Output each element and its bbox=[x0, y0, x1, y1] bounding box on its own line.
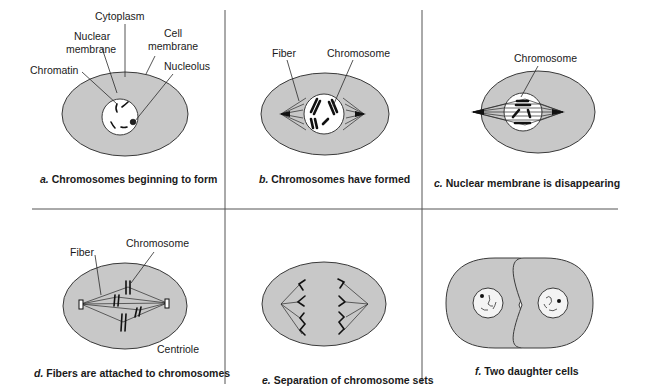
centriole-right bbox=[165, 299, 169, 308]
panel-e: e. Separation of chromosome sets bbox=[262, 262, 434, 386]
caption-c: c. Nuclear membrane is disappearing bbox=[434, 177, 620, 189]
caption-e: e. Separation of chromosome sets bbox=[262, 374, 434, 386]
nucleus-f-left bbox=[473, 288, 503, 318]
label-fiber-b: Fiber bbox=[272, 47, 296, 59]
label-chromatin: Chromatin bbox=[30, 64, 79, 76]
label-nuclear-membrane-1: Nuclear bbox=[74, 30, 111, 42]
centriole-left bbox=[79, 300, 83, 309]
label-fiber-d: Fiber bbox=[70, 246, 94, 258]
label-cytoplasm: Cytoplasm bbox=[95, 10, 145, 22]
label-cell-membrane-1: Cell bbox=[164, 27, 182, 39]
label-nuclear-membrane-2: membrane bbox=[66, 43, 116, 55]
caption-f: f. Two daughter cells bbox=[475, 365, 579, 377]
label-chromosome-b: Chromosome bbox=[327, 47, 390, 59]
caption-a: a. Chromosomes beginning to form bbox=[40, 173, 217, 185]
caption-d: d. Fibers are attached to chromosomes bbox=[34, 367, 230, 379]
nucleus-a bbox=[102, 99, 138, 135]
label-chromosome-d: Chromosome bbox=[126, 237, 189, 249]
panel-f: f. Two daughter cells bbox=[446, 258, 593, 377]
pointer-cell-membrane bbox=[146, 56, 155, 74]
label-nucleolus: Nucleolus bbox=[164, 60, 210, 72]
nucleus-f-right bbox=[538, 288, 568, 318]
nucleolus-f-left bbox=[480, 294, 484, 298]
label-centriole: Centriole bbox=[157, 343, 199, 355]
label-chromosome-c: Chromosome bbox=[514, 52, 577, 64]
nucleus-b bbox=[304, 94, 344, 134]
panel-c: Chromosome c. Nuclear membrane is disapp… bbox=[434, 52, 620, 189]
caption-b: b. Chromosomes have formed bbox=[259, 173, 410, 185]
panel-b: Fiber Chromosome b. Chromosomes have for… bbox=[259, 47, 410, 185]
nucleolus-f-right bbox=[557, 299, 561, 303]
nucleolus-a bbox=[130, 119, 136, 125]
label-cell-membrane-2: membrane bbox=[148, 40, 198, 52]
mitosis-diagram: Cytoplasm Nuclear membrane Cell membrane… bbox=[0, 0, 649, 392]
panel-a: Cytoplasm Nuclear membrane Cell membrane… bbox=[30, 10, 217, 185]
panel-d: Fiber Chromosome Centriole d. Fibers are… bbox=[34, 237, 230, 379]
